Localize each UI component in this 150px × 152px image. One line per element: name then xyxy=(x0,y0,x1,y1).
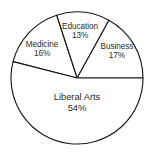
pie-chart: Business 17% Education 13% Medicine 16% … xyxy=(0,0,150,152)
pie-chart-svg xyxy=(0,0,150,152)
pie-slices xyxy=(11,12,143,144)
